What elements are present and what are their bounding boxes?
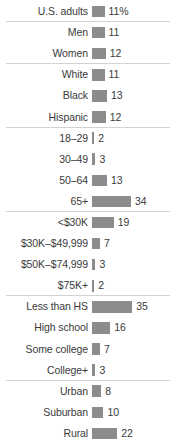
value-label: 2 (94, 280, 104, 291)
value-label: 12 (106, 112, 121, 123)
category-label: Men (0, 27, 88, 38)
chart-row: <$30K19 (0, 212, 174, 233)
category-label: $50K–$74,999 (0, 259, 88, 270)
category-label: Urban (0, 386, 88, 397)
value-bar (92, 343, 100, 355)
bar-area: 13 (88, 90, 174, 102)
category-label: $30K–$49,999 (0, 238, 88, 249)
bar-area: 16 (88, 322, 174, 334)
value-bar (92, 196, 131, 208)
value-label: 3 (95, 365, 105, 376)
chart-row: $30K–$49,9997 (0, 233, 174, 254)
category-label: Suburban (0, 407, 88, 418)
chart-row: Urban8 (0, 381, 174, 402)
category-label: Rural (0, 428, 88, 439)
bar-area: 11 (88, 69, 174, 81)
chart-row: $75K+2 (0, 275, 174, 296)
chart-row: 30–493 (0, 149, 174, 170)
value-bar (92, 69, 105, 81)
bar-area: 3 (88, 259, 174, 271)
bar-area: 3 (88, 364, 174, 376)
category-label: 50–64 (0, 175, 88, 186)
value-bar (92, 111, 106, 123)
value-label: 7 (100, 344, 110, 355)
value-label: 12 (106, 48, 121, 59)
chart-row: College+3 (0, 360, 174, 381)
category-label: Some college (0, 344, 88, 355)
category-label: Black (0, 90, 88, 101)
chart-row: Less than HS35 (0, 296, 174, 317)
value-label: 3 (95, 154, 105, 165)
value-label: 22 (117, 428, 132, 439)
chart-row: Women12 (0, 43, 174, 64)
value-label: 11 (105, 69, 120, 80)
value-label: 10 (103, 407, 118, 418)
value-label: 2 (94, 133, 104, 144)
value-label: 35 (132, 301, 147, 312)
bar-area: 11 (88, 27, 174, 39)
chart-row: 50–6413 (0, 170, 174, 191)
value-bar (92, 27, 105, 39)
category-label: $75K+ (0, 280, 88, 291)
chart-row: U.S. adults11% (0, 1, 174, 22)
chart-row: Men11 (0, 22, 174, 43)
bar-area: 34 (88, 196, 174, 208)
value-bar (92, 428, 117, 440)
value-bar (92, 385, 101, 397)
category-label: 30–49 (0, 154, 88, 165)
chart-row: Rural22 (0, 423, 174, 443)
bar-area: 10 (88, 407, 174, 419)
bar-area: 35 (88, 301, 174, 313)
value-label: 7 (100, 238, 110, 249)
chart-row: 65+34 (0, 191, 174, 212)
chart-row: White11 (0, 64, 174, 85)
value-bar (92, 90, 107, 102)
bar-area: 12 (88, 111, 174, 123)
bar-area: 12 (88, 48, 174, 60)
chart-row: Black13 (0, 85, 174, 106)
chart-row: High school16 (0, 317, 174, 338)
value-label: 16 (110, 322, 125, 333)
value-bar (92, 322, 110, 334)
value-label: 13 (107, 90, 122, 101)
value-bar (92, 238, 100, 250)
value-label: 11 (105, 27, 120, 38)
chart-row: Hispanic12 (0, 106, 174, 127)
value-label: 8 (101, 386, 111, 397)
category-label: White (0, 69, 88, 80)
category-label: <$30K (0, 217, 88, 228)
category-label: Hispanic (0, 112, 88, 123)
bar-area: 13 (88, 175, 174, 187)
value-bar (92, 407, 103, 419)
category-label: Less than HS (0, 301, 88, 312)
value-label: 13 (107, 175, 122, 186)
value-label: 19 (114, 217, 129, 228)
bar-area: 7 (88, 238, 174, 250)
bar-area: 2 (88, 132, 174, 144)
value-label: 11% (105, 6, 129, 17)
bar-area: 22 (88, 428, 174, 440)
bar-area: 8 (88, 385, 174, 397)
value-bar (92, 175, 107, 187)
chart-row: 18–292 (0, 128, 174, 149)
value-bar (92, 301, 132, 313)
bar-area: 7 (88, 343, 174, 355)
category-label: U.S. adults (0, 6, 88, 17)
value-bar (92, 48, 106, 60)
category-label: 18–29 (0, 133, 88, 144)
chart-row: Some college7 (0, 339, 174, 360)
value-bar (92, 217, 114, 229)
chart-row: $50K–$74,9993 (0, 254, 174, 275)
category-label: College+ (0, 365, 88, 376)
category-label: 65+ (0, 196, 88, 207)
bar-area: 3 (88, 153, 174, 165)
value-label: 3 (95, 259, 105, 270)
category-label: Women (0, 48, 88, 59)
bar-area: 19 (88, 217, 174, 229)
value-label: 34 (131, 196, 146, 207)
bar-area: 2 (88, 280, 174, 292)
chart-row: Suburban10 (0, 402, 174, 423)
category-label: High school (0, 322, 88, 333)
value-bar (92, 6, 105, 18)
